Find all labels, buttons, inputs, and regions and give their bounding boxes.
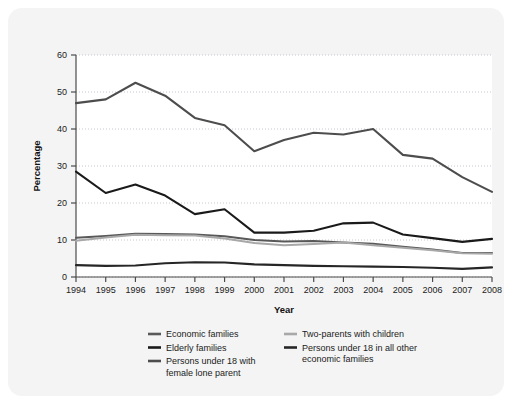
- x-axis-tick-label: 2008: [482, 285, 502, 295]
- chart-legend: Economic familiesElderly familiesPersons…: [148, 329, 417, 378]
- legend-label: Economic families: [166, 329, 239, 339]
- y-axis-tick-label: 60: [57, 50, 67, 60]
- y-axis-tick-label: 20: [57, 198, 67, 208]
- y-axis-tick-label: 40: [57, 124, 67, 134]
- x-axis-tick-label: 2003: [333, 285, 353, 295]
- x-axis-tick-label: 1995: [96, 285, 116, 295]
- x-axis-tick-label: 1996: [125, 285, 145, 295]
- y-axis-tick-label: 30: [57, 161, 67, 171]
- x-axis-tick-label: 2007: [452, 285, 472, 295]
- y-axis-tick-label: 10: [57, 235, 67, 245]
- x-axis-tick-label: 1999: [215, 285, 235, 295]
- x-axis-tick-label: 2000: [244, 285, 264, 295]
- y-axis-title: Percentage: [31, 140, 42, 191]
- legend-label: Persons under 18 in all other: [302, 343, 417, 353]
- line-chart: 0102030405060 19941995199619971998199920…: [8, 8, 504, 396]
- y-axis-tick-label: 0: [62, 272, 67, 282]
- x-axis-tick-label: 1994: [66, 285, 86, 295]
- x-axis-tick-label: 2006: [423, 285, 443, 295]
- x-axis-tick-label: 1997: [155, 285, 175, 295]
- x-axis-tick-label: 2002: [304, 285, 324, 295]
- legend-label-continued: economic families: [302, 354, 374, 364]
- legend-label-continued: female lone parent: [166, 368, 241, 378]
- x-axis-tick-label: 2001: [274, 285, 294, 295]
- x-axis-tick-label: 2004: [363, 285, 383, 295]
- x-axis-title: Year: [274, 304, 294, 315]
- x-axis: 1994199519961997199819992000200120022003…: [66, 277, 502, 295]
- legend-label: Elderly families: [166, 343, 227, 353]
- x-axis-title-label: Year: [274, 304, 294, 315]
- y-axis-tick-label: 50: [57, 87, 67, 97]
- x-axis-tick-label: 1998: [185, 285, 205, 295]
- legend-label: Two-parents with children: [302, 329, 404, 339]
- figure-card: 0102030405060 19941995199619971998199920…: [8, 8, 504, 396]
- legend-label: Persons under 18 with: [166, 356, 256, 366]
- y-axis-title-label: Percentage: [31, 140, 42, 191]
- x-axis-tick-label: 2005: [393, 285, 413, 295]
- y-axis: 0102030405060: [57, 50, 76, 282]
